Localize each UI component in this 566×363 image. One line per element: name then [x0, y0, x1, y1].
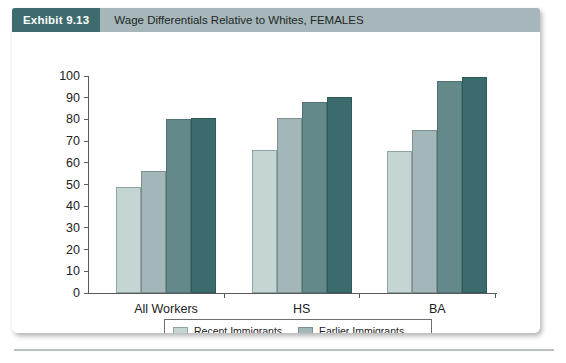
y-axis-tick-mark [84, 162, 88, 163]
bar [412, 130, 437, 293]
bar [191, 118, 216, 293]
exhibit-card: Exhibit 9.13 Wage Differentials Relative… [12, 8, 540, 333]
bar [252, 150, 277, 293]
bar [116, 187, 141, 293]
bar [141, 171, 166, 293]
y-axis-tick-label: 50 [66, 178, 84, 192]
x-axis-group-label: BA [429, 302, 446, 316]
y-axis-tick-label: 40 [66, 199, 84, 213]
y-axis-tick: 80 [66, 112, 88, 126]
y-axis-tick-label: 20 [66, 243, 84, 257]
y-axis-tick-mark [84, 119, 88, 120]
y-axis-tick-label: 100 [59, 69, 84, 83]
legend-swatch [298, 327, 313, 333]
x-axis-tick-mark [224, 293, 225, 298]
y-axis-tick-mark [84, 227, 88, 228]
bar [166, 119, 191, 293]
y-axis-tick: 0 [73, 286, 88, 300]
bar [327, 97, 352, 293]
x-axis-group-label: HS [293, 302, 310, 316]
x-axis-tick-mark [495, 293, 496, 298]
y-axis-tick-label: 0 [73, 286, 84, 300]
legend-entry: Recent Immigrants [173, 325, 298, 333]
y-axis-tick: 100 [59, 69, 88, 83]
y-axis-tick: 20 [66, 243, 88, 257]
y-axis-tick-label: 60 [66, 156, 84, 170]
y-axis-tick: 70 [66, 134, 88, 148]
y-axis-tick-mark [84, 249, 88, 250]
plot-area: 0102030405060708090100 [88, 76, 495, 293]
y-axis-tick-label: 30 [66, 221, 84, 235]
legend-swatch [173, 327, 188, 333]
y-axis-tick-mark [84, 184, 88, 185]
exhibit-header: Exhibit 9.13 Wage Differentials Relative… [12, 8, 540, 32]
y-axis-tick: 10 [66, 264, 88, 278]
bar [462, 77, 487, 293]
bar [387, 151, 412, 293]
y-axis-tick-mark [84, 293, 88, 294]
legend-entry: Earlier Immigrants [298, 325, 423, 333]
x-axis-line [88, 293, 497, 294]
y-axis-tick-mark [84, 97, 88, 98]
y-axis-tick: 50 [66, 178, 88, 192]
y-axis-tick-mark [84, 76, 88, 77]
legend-label: Earlier Immigrants [319, 325, 404, 333]
y-axis-tick: 90 [66, 91, 88, 105]
x-axis-group-label: All Workers [134, 302, 198, 316]
y-axis-tick-label: 80 [66, 112, 84, 126]
legend-row: Recent ImmigrantsEarlier Immigrants [173, 325, 423, 333]
y-axis-tick-mark [84, 271, 88, 272]
page-divider-rule [14, 349, 554, 351]
y-axis-tick-label: 90 [66, 91, 84, 105]
y-axis-tick-mark [84, 206, 88, 207]
y-axis-tick-mark [84, 141, 88, 142]
legend-label: Recent Immigrants [194, 325, 282, 333]
chart-body: 0102030405060708090100 Recent Immigrants… [12, 32, 540, 333]
y-axis-tick-label: 70 [66, 134, 84, 148]
bar [437, 81, 462, 293]
bar [302, 102, 327, 293]
bar [277, 118, 302, 293]
y-axis-tick: 40 [66, 199, 88, 213]
exhibit-title: Wage Differentials Relative to Whites, F… [100, 8, 363, 32]
exhibit-badge: Exhibit 9.13 [12, 8, 100, 32]
y-axis-tick: 30 [66, 221, 88, 235]
y-axis-tick: 60 [66, 156, 88, 170]
y-axis-tick-label: 10 [66, 264, 84, 278]
chart-legend: Recent ImmigrantsEarlier ImmigrantsSecon… [164, 319, 432, 333]
x-axis-tick-mark [359, 293, 360, 298]
